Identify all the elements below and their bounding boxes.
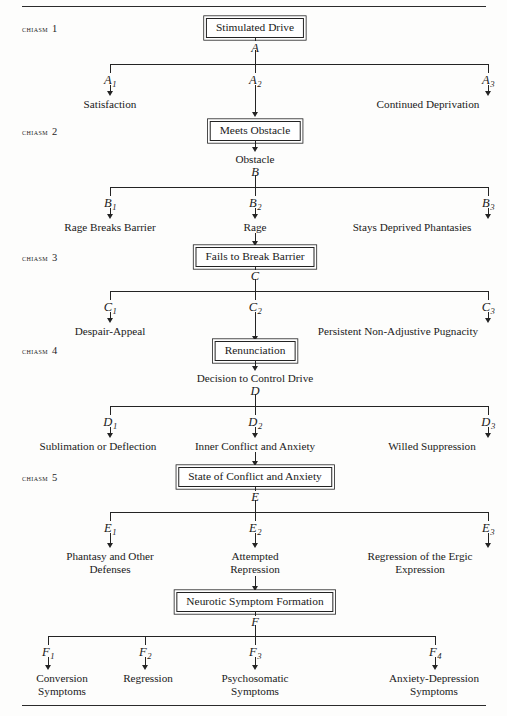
- chiasm-label-1-number: 1: [52, 23, 57, 34]
- leaf-satisfaction: Satisfaction: [84, 98, 137, 111]
- arrow-b3-head: [485, 214, 491, 219]
- connector-a2-drop: [255, 64, 256, 73]
- connector-b3-drop: [488, 187, 489, 196]
- connector-a1-drop: [110, 64, 111, 73]
- connector-b-pre-arrow: [252, 147, 258, 152]
- text-obstacle: Obstacle: [235, 153, 274, 166]
- connector-f4-drop: [435, 636, 436, 645]
- leaf-regression-of-the-ergic-expression: Regression of the ErgicExpression: [367, 550, 472, 575]
- leaf-regression-l1: Regression: [123, 672, 173, 684]
- arrow-b2-head: [252, 214, 258, 219]
- leaf-rage-breaks-barrier-text: Rage Breaks Barrier: [64, 221, 155, 233]
- leaf-sublimation-or-deflection-text: Sublimation or Deflection: [40, 440, 157, 452]
- box-neurotic-symptom-formation-label: Neurotic Symptom Formation: [186, 595, 323, 608]
- leaf-regression: Regression: [123, 672, 173, 685]
- connector-c1-drop: [110, 291, 111, 300]
- leaf-continued-deprivation: Continued Deprivation: [377, 98, 480, 111]
- branch-letter-e2-sub: 2: [257, 527, 261, 537]
- arrow-e2-head: [252, 543, 258, 548]
- leaf-rage-text: Rage: [244, 221, 267, 233]
- branch-letter-d2-sub: 2: [258, 421, 262, 431]
- arrow-a2-head: [252, 112, 258, 117]
- leaf-phantasy-and-other-defenses-l2: Defenses: [66, 563, 154, 576]
- box-stimulated-drive[interactable]: Stimulated Drive: [206, 18, 304, 38]
- leaf-stays-deprived-phantasies-text: Stays Deprived Phantasies: [353, 221, 472, 233]
- leaf-phantasy-and-other-defenses: Phantasy and OtherDefenses: [66, 550, 154, 575]
- leaf-attempted-repression: AttemptedRepression: [230, 550, 280, 575]
- connector-c-bus: [110, 291, 488, 292]
- branch-letter-e1-sub: 1: [112, 527, 116, 537]
- leaf-regression-of-the-ergic-expression-l2: Expression: [367, 563, 472, 576]
- branch-letter-b3-sub: 3: [490, 202, 494, 212]
- leaf-psychosomatic-symptoms-l2: Symptoms: [221, 685, 288, 698]
- chiasm-label-4: CHIASM4: [22, 345, 57, 356]
- text-decision-to-control-drive: Decision to Control Drive: [197, 372, 314, 385]
- arrow-c3-head: [485, 318, 491, 323]
- box-renunciation[interactable]: Renunciation: [215, 341, 296, 361]
- leaf-psychosomatic-symptoms: PsychosomaticSymptoms: [221, 672, 288, 697]
- connector-b1-drop: [110, 187, 111, 196]
- arrow-d3-head: [485, 433, 491, 438]
- branch-letter-c1-sub: 1: [113, 306, 117, 316]
- branch-letter-e3-sub: 3: [490, 527, 494, 537]
- connector-e1-drop: [110, 512, 111, 521]
- connector-a-stem-top: [255, 37, 256, 41]
- connector-d3-drop: [488, 406, 489, 415]
- connector-a-bus: [110, 64, 488, 65]
- top-rule: [22, 6, 486, 7]
- arrow-b1-head: [107, 214, 113, 219]
- leaf-psychosomatic-symptoms-l1: Psychosomatic: [221, 672, 288, 684]
- box-neurotic-symptom-formation[interactable]: Neurotic Symptom Formation: [176, 592, 333, 612]
- leaf-attempted-repression-l1: Attempted: [231, 550, 278, 562]
- box-meets-obstacle-label: Meets Obstacle: [220, 124, 291, 137]
- arrow-a1-head: [107, 91, 113, 96]
- leaf-sublimation-or-deflection: Sublimation or Deflection: [40, 440, 157, 453]
- chiasm-label-4-text: CHIASM: [22, 346, 48, 356]
- branch-letter-b1-sub: 1: [112, 202, 116, 212]
- leaf-stays-deprived-phantasies: Stays Deprived Phantasies: [353, 221, 472, 234]
- connector-e-stem: [255, 500, 256, 512]
- chiasm-label-4-number: 4: [52, 345, 57, 356]
- branch-letter-b2-sub: 2: [257, 202, 261, 212]
- chiasm-label-1-text: CHIASM: [22, 24, 48, 34]
- chiasm-label-2-text: CHIASM: [22, 127, 48, 137]
- bottom-rule: [22, 705, 486, 706]
- chiasm-label-2: CHIASM2: [22, 126, 57, 137]
- connector-f-bus: [48, 636, 435, 637]
- box-state-of-conflict-and-anxiety[interactable]: State of Conflict and Anxiety: [178, 467, 332, 487]
- arrow-d2-head: [252, 433, 258, 438]
- connector-a2-to-chiasm2: [255, 85, 256, 113]
- branch-letter-f3-sub: 3: [257, 651, 261, 661]
- chiasm-label-5-number: 5: [52, 472, 57, 483]
- connector-e-stem-top: [255, 487, 256, 491]
- arrow-f1-head: [45, 665, 51, 670]
- connector-f-stem-top: [255, 612, 256, 616]
- box-stimulated-drive-label: Stimulated Drive: [216, 21, 294, 34]
- connector-a3-drop: [488, 64, 489, 73]
- branch-letter-f2-sub: 2: [147, 651, 151, 661]
- arrow-d1-head: [107, 433, 113, 438]
- connector-e3-drop: [488, 512, 489, 521]
- arrow-e3-head: [485, 543, 491, 548]
- connector-f-stem: [255, 625, 256, 636]
- chiasm-label-3: CHIASM3: [22, 252, 57, 263]
- box-fails-to-break-barrier[interactable]: Fails to Break Barrier: [195, 247, 314, 267]
- connector-c2-drop: [255, 291, 256, 300]
- connector-c-stem-top: [255, 266, 256, 270]
- leaf-despair-appeal: Despair-Appeal: [75, 325, 146, 338]
- arrow-f2-head: [142, 665, 148, 670]
- arrow-e1-head: [107, 543, 113, 548]
- leaf-conversion-symptoms: ConversionSymptoms: [36, 672, 88, 697]
- branch-letter-a2-sub: 2: [257, 79, 261, 89]
- arrow-c1-head: [107, 318, 113, 323]
- leaf-rage: Rage: [244, 221, 267, 234]
- leaf-regression-of-the-ergic-expression-l1: Regression of the Ergic: [367, 550, 472, 562]
- branch-letter-d1-sub: 1: [113, 421, 117, 431]
- branch-letter-f1-sub: 1: [50, 651, 54, 661]
- branch-letter-a1-sub: 1: [112, 79, 116, 89]
- branch-letter-d3-base: D: [481, 415, 490, 429]
- connector-d1-drop: [110, 406, 111, 415]
- connector-d-stem: [255, 394, 256, 406]
- box-meets-obstacle[interactable]: Meets Obstacle: [210, 121, 301, 141]
- leaf-willed-suppression-text: Willed Suppression: [388, 440, 476, 452]
